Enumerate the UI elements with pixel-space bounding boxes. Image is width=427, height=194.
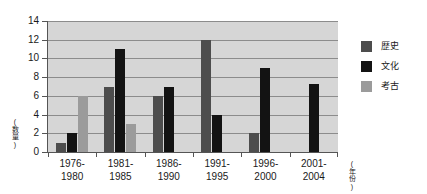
x-tick-mark [48,152,49,157]
bar-歴史 [153,96,163,152]
y-axis-title-char: ( [5,118,25,126]
y-axis-title-char: 数 [5,126,25,134]
x-tick-label-line: 1990 [145,171,193,184]
x-tick-label: 1981-1985 [96,158,144,183]
x-axis-labels: 1976-19801981-19851986-19901991-19951996… [48,158,338,188]
legend-item-歴史[interactable]: 歴史 [361,36,425,56]
y-tick-label: 10 [28,53,39,63]
y-tick-mark [42,58,47,59]
x-axis-title: (年份) [344,160,360,190]
y-tick-mark [42,21,47,22]
legend-label: 歴史 [381,41,399,52]
y-axis-title-char: 量 [5,133,25,141]
bar-考古 [78,96,88,152]
y-tick-label: 14 [28,16,39,26]
y-tick-label: 4 [33,110,39,120]
bar-歴史 [249,133,259,152]
x-tick-mark [193,152,194,157]
y-axis-title-char: ) [5,141,25,149]
x-tick-label-line: 1981- [96,158,144,171]
bar-group [290,21,338,152]
x-tick-label-line: 1996- [241,158,289,171]
x-tick-mark [337,152,338,157]
y-tick-mark [42,152,47,153]
y-tick-mark [42,96,47,97]
y-axis-line [47,21,48,153]
bar-考古 [126,124,136,152]
bar-group [241,21,289,152]
y-tick-mark [42,40,47,41]
x-axis-title-char: ( [344,160,360,168]
bar-歴史 [104,87,114,153]
x-tick-mark [145,152,146,157]
y-tick-label: 0 [33,147,39,157]
bar-文化 [260,68,270,152]
x-tick-mark [290,152,291,157]
bar-文化 [164,87,174,153]
x-axis-ticks [48,152,338,157]
bar-group [193,21,241,152]
chart-figure: 14121086420 (数量) 1976-19801981-19851986-… [0,0,427,194]
bar-歴史 [201,40,211,152]
y-tick-mark [42,77,47,78]
x-tick-label-line: 1985 [96,171,144,184]
bar-group [48,21,96,152]
x-tick-label: 1996-2000 [241,158,289,183]
plot-area [48,21,338,152]
x-tick-label-line: 2004 [290,171,338,184]
y-tick-label: 2 [33,128,39,138]
legend-label: 文化 [381,61,399,72]
bar-group [145,21,193,152]
y-tick-label: 6 [33,91,39,101]
x-axis-title-char: 份 [344,175,360,183]
legend: 歴史文化考古 [361,36,425,96]
bar-文化 [67,133,77,152]
bar-歴史 [56,143,66,152]
legend-swatch-icon [361,81,372,92]
bar-groups [48,21,338,152]
x-tick-label-line: 1976- [48,158,96,171]
legend-label: 考古 [381,81,399,92]
y-tick-mark [42,115,47,116]
bar-文化 [309,84,319,152]
x-tick-label-line: 2000 [241,171,289,184]
legend-swatch-icon [361,61,372,72]
bar-文化 [115,49,125,152]
x-axis-title-char: 年 [344,168,360,176]
y-tick-mark [42,133,47,134]
x-tick-label-line: 1980 [48,171,96,184]
y-axis-title: (数量) [5,118,25,148]
x-tick-label: 1986-1990 [145,158,193,183]
legend-item-考古[interactable]: 考古 [361,76,425,96]
bar-group [96,21,144,152]
x-tick-label-line: 1995 [193,171,241,184]
y-tick-label: 8 [33,72,39,82]
x-tick-mark [96,152,97,157]
bar-文化 [212,115,222,152]
y-tick-label: 12 [28,35,39,45]
x-tick-mark [241,152,242,157]
legend-item-文化[interactable]: 文化 [361,56,425,76]
x-tick-label: 2001-2004 [290,158,338,183]
x-tick-label: 1976-1980 [48,158,96,183]
x-tick-label-line: 1991- [193,158,241,171]
x-axis-title-char: ) [344,183,360,191]
x-tick-label-line: 1986- [145,158,193,171]
x-tick-label-line: 2001- [290,158,338,171]
legend-swatch-icon [361,41,372,52]
x-tick-label: 1991-1995 [193,158,241,183]
